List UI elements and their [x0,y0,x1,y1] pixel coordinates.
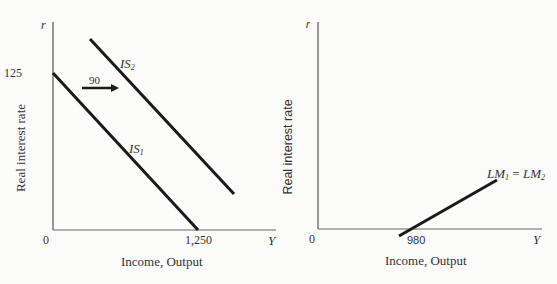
r-axis-symbol: r [41,18,46,33]
x-axis-label: Income, Output [385,253,467,269]
is2-label-sub: 2 [131,63,135,72]
lm-chart: r Real interest rate LM1 = LM2 0 980 Y I… [278,0,557,284]
lm1-label-main: LM [487,166,505,181]
is1-curve [53,73,198,230]
y-axis-symbol: Y [268,233,275,249]
lm-label: LM1 = LM2 [487,166,545,182]
origin-label: 0 [43,233,49,248]
shift-arrow-icon [111,84,119,92]
is1-label-sub: 1 [140,148,144,157]
y-axis-label: Real interest rate [281,92,295,202]
is2-label-main: IS [120,56,131,71]
is2-curve [90,39,234,194]
r-axis-symbol: r [306,18,310,30]
is1-label-main: IS [129,141,140,156]
lm2-label-sub: 2 [541,173,545,182]
x-tick-1250: 1,250 [185,233,212,248]
lm-curve [399,180,497,236]
x-axis-label: Income, Output [121,254,203,270]
is-shift-chart: r 125 90 IS2 IS1 Real interest rate 0 1,… [0,0,280,284]
x-tick-980: 980 [407,234,425,246]
origin-label: 0 [309,232,315,247]
y-axis-symbol: Y [533,232,540,248]
y-tick-125: 125 [4,66,22,81]
shift-label: 90 [89,74,100,86]
lm-equals: = [509,166,523,181]
y-axis-label: Real interest rate [13,93,29,203]
lm2-label-main: LM [523,166,541,181]
is2-label: IS2 [120,56,135,72]
is1-label: IS1 [129,141,144,157]
